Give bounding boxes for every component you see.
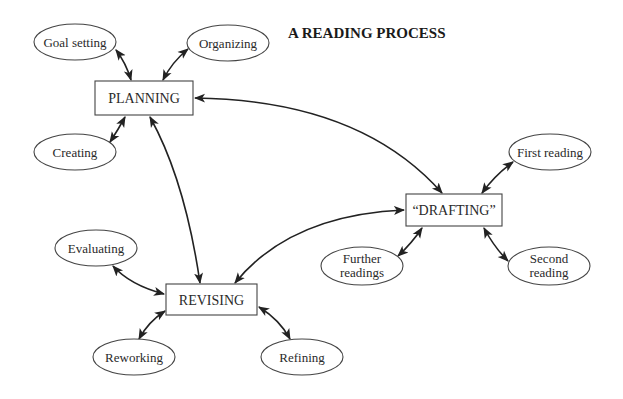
- node-organizing: Organizing: [187, 25, 269, 61]
- node-creating: Creating: [34, 134, 116, 170]
- node-label-line1: Second: [530, 251, 569, 266]
- node-label-line2: reading: [530, 265, 569, 280]
- edge-planning-drafting: [195, 98, 442, 193]
- edge-evaluating-revising: [113, 266, 164, 294]
- edge-creating-planning: [110, 117, 125, 142]
- node-label: Creating: [53, 145, 98, 160]
- node-label: Goal setting: [43, 35, 107, 50]
- node-evaluating: Evaluating: [55, 230, 137, 266]
- node-label: Reworking: [105, 350, 163, 365]
- node-revising: REVISING: [166, 284, 257, 315]
- node-drafting: “DRAFTING”: [406, 194, 502, 226]
- node-second-reading: Second reading: [508, 247, 590, 285]
- node-label: “DRAFTING”: [412, 203, 495, 218]
- node-label: REVISING: [179, 293, 244, 308]
- node-label: First reading: [517, 145, 584, 160]
- edge-second-reading-drafting: [484, 228, 508, 261]
- node-label: Organizing: [199, 36, 258, 51]
- node-label: PLANNING: [108, 91, 180, 106]
- node-label: Refining: [279, 350, 325, 365]
- edge-goal-setting-planning: [116, 50, 131, 80]
- node-refining: Refining: [261, 339, 343, 375]
- node-label-line2: readings: [340, 265, 384, 280]
- diagram-title: A READING PROCESS: [288, 25, 446, 41]
- edge-first-reading-drafting: [482, 162, 513, 193]
- edge-organizing-planning: [163, 49, 188, 80]
- edge-reworking-revising: [139, 311, 165, 339]
- node-label: Evaluating: [68, 241, 125, 256]
- node-further-readings: Further readings: [321, 247, 403, 285]
- edge-refining-revising: [259, 307, 290, 339]
- edge-further-readings-drafting: [398, 228, 422, 256]
- node-goal-setting: Goal setting: [34, 24, 116, 60]
- reading-process-diagram: A READING PROCESS Goal setting Organizin…: [0, 0, 623, 399]
- node-label-line1: Further: [343, 251, 382, 266]
- node-planning: PLANNING: [95, 81, 193, 115]
- node-reworking: Reworking: [93, 339, 175, 375]
- node-first-reading: First reading: [509, 134, 591, 170]
- edge-revising-planning: [150, 117, 200, 283]
